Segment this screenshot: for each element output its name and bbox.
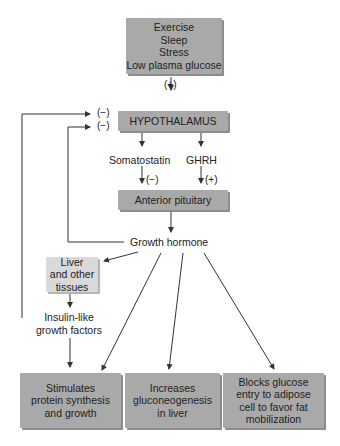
effect-fat-mobilization-box: Blocks glucose entry to adipose cell to …: [223, 373, 324, 428]
effect-1-line-2: protein synthesis: [31, 394, 110, 407]
effect-2-line-1: Increases: [150, 382, 196, 395]
feedback-sign-gh: (−): [97, 120, 110, 131]
somatostatin-label: Somatostatin: [109, 154, 170, 167]
stimulus-exercise: Exercise: [154, 21, 194, 34]
anterior-pituitary-box: Anterior pituitary: [118, 190, 228, 210]
effect-1-line-3: and growth: [45, 407, 97, 420]
anterior-pituitary-label: Anterior pituitary: [135, 194, 211, 207]
ghrh-label: GHRH: [186, 154, 217, 167]
liver-box: Liver and other tissues: [46, 257, 98, 292]
effect-3-line-4: mobilization: [246, 413, 301, 426]
stimulus-stress: Stress: [159, 46, 189, 59]
igf-line-1: Insulin-like: [36, 311, 102, 324]
stimulus-low-glucose: Low plasma glucose: [126, 59, 221, 72]
liver-line-1: Liver: [61, 256, 84, 269]
stimuli-box: Exercise Sleep Stress Low plasma glucose: [126, 18, 222, 74]
effect-2-line-2: gluconeogenesis: [133, 394, 212, 407]
effect-protein-synthesis-box: Stimulates protein synthesis and growth: [20, 373, 121, 428]
effect-3-line-2: entry to adipose: [236, 388, 311, 401]
effect-3-line-1: Blocks glucose: [238, 376, 308, 389]
igf-line-2: growth factors: [36, 324, 102, 337]
stimuli-sign: (+): [164, 79, 177, 90]
liver-line-2: and other: [50, 268, 94, 281]
effect-1-line-1: Stimulates: [46, 382, 95, 395]
ghrh-sign: (+): [205, 174, 218, 185]
growth-hormone-label: Growth hormone: [130, 236, 208, 249]
hypothalamus-label: HYPOTHALAMUS: [130, 115, 217, 128]
effect-2-line-3: in liver: [157, 407, 187, 420]
liver-line-3: tissues: [56, 281, 89, 294]
stimulus-sleep: Sleep: [161, 34, 188, 47]
effect-gluconeogenesis-box: Increases gluconeogenesis in liver: [125, 373, 220, 428]
feedback-sign-igf: (−): [97, 107, 110, 118]
hypothalamus-box: HYPOTHALAMUS: [118, 111, 228, 131]
igf-label: Insulin-like growth factors: [36, 311, 102, 336]
somatostatin-sign: (−): [146, 174, 159, 185]
effect-3-line-3: cell to favor fat: [239, 401, 307, 414]
